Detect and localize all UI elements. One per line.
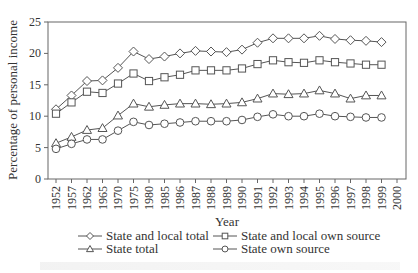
x-tick-label: 1995 xyxy=(313,186,327,210)
triangle-marker xyxy=(315,86,324,94)
circle-marker xyxy=(130,118,138,126)
circle-marker xyxy=(269,110,277,118)
cropped-caption-text xyxy=(40,262,400,270)
circle-marker xyxy=(316,110,324,118)
square-marker xyxy=(145,77,152,84)
legend-item: State total xyxy=(78,241,159,256)
x-tick-label: 1962 xyxy=(80,186,94,210)
x-tick-label: 1980 xyxy=(142,186,156,210)
x-tick-label: 1990 xyxy=(235,186,249,210)
x-tick-label: 1952 xyxy=(49,186,63,210)
y-axis-title: Percentage of personal income xyxy=(5,20,20,180)
triangle-marker xyxy=(191,99,200,107)
circle-marker xyxy=(176,119,184,127)
square-marker xyxy=(207,67,214,74)
x-tick-label: 1991 xyxy=(251,186,265,210)
diamond-marker xyxy=(269,34,278,43)
x-tick-label: 1986 xyxy=(173,186,187,210)
triangle-marker xyxy=(129,99,138,107)
x-tick-label: 1994 xyxy=(297,186,311,210)
x-tick-label: 1970 xyxy=(111,186,125,210)
diamond-marker xyxy=(145,55,154,64)
diamond-marker xyxy=(377,38,386,47)
diamond-marker xyxy=(238,45,247,54)
square-marker xyxy=(83,88,90,95)
square-marker xyxy=(285,59,292,66)
diamond-marker xyxy=(176,49,185,58)
circle-marker xyxy=(114,127,122,135)
diamond-marker xyxy=(362,36,371,45)
x-tick-label: 1985 xyxy=(158,186,172,210)
y-tick-label: 5 xyxy=(35,141,41,155)
square-marker xyxy=(316,57,323,64)
x-tick-label: 1999 xyxy=(375,186,389,210)
diamond-marker xyxy=(222,48,231,57)
x-tick-label: 1992 xyxy=(266,186,280,210)
circle-marker xyxy=(378,114,386,122)
x-tick-label: 1957 xyxy=(65,186,79,210)
x-axis-title: Year xyxy=(215,214,240,229)
circle-marker xyxy=(99,136,107,144)
x-tick-label: 1988 xyxy=(204,186,218,210)
y-tick-label: 20 xyxy=(29,46,41,60)
y-tick-label: 25 xyxy=(29,15,41,29)
y-tick-label: 15 xyxy=(29,78,41,92)
circle-marker xyxy=(254,113,262,121)
square-marker xyxy=(52,110,59,117)
diamond-marker xyxy=(300,34,309,43)
square-marker xyxy=(331,59,338,66)
legend-item: State own source xyxy=(213,241,330,256)
legend-label: State total xyxy=(106,241,159,256)
triangle-marker xyxy=(269,89,278,97)
series-line xyxy=(56,36,382,109)
square-marker xyxy=(378,61,385,68)
circle-marker xyxy=(238,116,246,124)
circle-marker xyxy=(300,112,308,120)
circle-marker xyxy=(347,113,355,121)
square-marker xyxy=(161,74,168,81)
square-marker xyxy=(269,57,276,64)
circle-marker xyxy=(331,112,339,120)
square-marker xyxy=(347,60,354,67)
diamond-marker xyxy=(346,36,355,45)
diamond-marker xyxy=(284,34,293,43)
square-marker xyxy=(176,71,183,78)
triangle-marker xyxy=(377,91,386,99)
line-chart: 0510152025195219571962196519701975198019… xyxy=(0,0,418,273)
x-tick-label: 2000 xyxy=(390,186,404,210)
triangle-marker xyxy=(176,99,185,107)
y-tick-label: 0 xyxy=(35,172,41,186)
diamond-marker xyxy=(331,34,340,43)
circle-marker xyxy=(68,140,76,148)
circle-marker xyxy=(83,136,91,144)
square-marker xyxy=(192,67,199,74)
circle-marker xyxy=(207,117,215,125)
circle-marker xyxy=(145,121,153,129)
legend-label: State own source xyxy=(241,241,330,256)
x-tick-label: 1965 xyxy=(96,186,110,210)
circle-marker xyxy=(161,120,169,128)
x-tick-label: 1975 xyxy=(127,186,141,210)
square-marker xyxy=(223,67,230,74)
x-tick-label: 1996 xyxy=(328,186,342,210)
triangle-marker xyxy=(67,132,76,140)
diamond-marker xyxy=(315,31,324,40)
circle-marker xyxy=(192,117,200,125)
square-marker xyxy=(130,70,137,77)
chart-series xyxy=(52,31,387,152)
square-marker xyxy=(254,60,261,67)
circle-marker xyxy=(52,145,60,153)
square-marker xyxy=(300,59,307,66)
circle-marker xyxy=(362,114,370,122)
circle-marker xyxy=(223,117,231,125)
series-line xyxy=(56,60,382,113)
x-tick-label: 1997 xyxy=(344,186,358,210)
square-marker xyxy=(238,65,245,72)
square-marker xyxy=(68,99,75,106)
y-tick-label: 10 xyxy=(29,109,41,123)
triangle-marker xyxy=(98,124,107,132)
circle-icon xyxy=(222,246,228,252)
square-marker xyxy=(114,80,121,87)
chart-legend: State and local totalState and local own… xyxy=(78,228,381,256)
square-icon xyxy=(222,233,228,239)
